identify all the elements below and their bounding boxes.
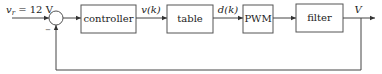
controller-label: controller — [84, 13, 134, 24]
input-label: vr = 12 V — [6, 4, 54, 17]
minus-sign: − — [45, 26, 51, 34]
pwm-label: PWM — [244, 13, 271, 24]
feedback-block-diagram: vr = 12 V − controller v(k) table d(k) P… — [0, 0, 382, 74]
filter-label: filter — [307, 12, 332, 23]
table-label: table — [177, 13, 203, 24]
summing-junction — [49, 11, 63, 25]
signal-v-k-label: v(k) — [141, 4, 161, 15]
signal-d-k-label: d(k) — [218, 4, 238, 15]
output-v-label: V — [354, 4, 363, 15]
table-block: table — [167, 5, 213, 33]
filter-block: filter — [296, 4, 343, 32]
controller-block: controller — [81, 5, 136, 33]
pwm-block: PWM — [243, 5, 273, 33]
